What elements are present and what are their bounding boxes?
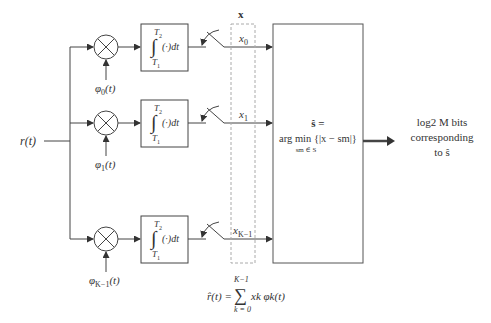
basis-label-2: φK−1(t)	[89, 275, 120, 289]
decision-subscript: sm ∈ S	[273, 147, 339, 154]
output-line1: log2 M bits	[400, 117, 484, 128]
basis-label-0: φ0(t)	[95, 83, 115, 97]
output-x1: x1	[239, 109, 248, 123]
output-x0: x0	[239, 33, 248, 47]
basis-label-1: φ1(t)	[95, 159, 115, 173]
decision-line1: ŝ =	[273, 118, 363, 129]
input-label: r(t)	[20, 135, 36, 147]
output-line3: to ŝ	[400, 147, 484, 158]
decision-line2: arg min {|x − sm|}	[273, 134, 363, 145]
vector-label: x	[238, 9, 244, 20]
output-xK-1: xK−1	[233, 225, 252, 239]
output-line2: corresponding	[400, 132, 484, 143]
